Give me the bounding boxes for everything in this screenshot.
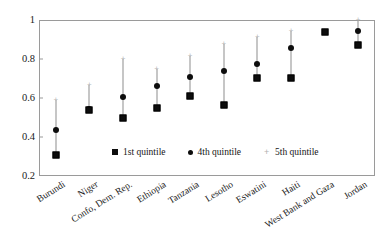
x-tick-label: Niger	[77, 180, 100, 200]
x-tick-label: Eswatini	[235, 180, 268, 206]
x-tick-label: Confo, Dem. Rep.	[70, 180, 134, 225]
x-tick-label: Haiti	[281, 180, 302, 198]
legend-marker-plus-icon	[263, 149, 270, 156]
chart-figure: 0.20.40.60.81 BurundiNigerConfo, Dem. Re…	[0, 0, 383, 251]
legend-label: 1st quintile	[123, 147, 166, 157]
x-tick-label: Tanzania	[167, 180, 201, 206]
x-tick-label: Burundi	[35, 180, 66, 205]
legend-marker-filled-circle-icon	[188, 150, 193, 155]
legend-item[interactable]: 1st quintile	[112, 147, 166, 157]
legend-marker-filled-square-icon	[112, 149, 118, 155]
chart-legend: 1st quintile4th quintile5th quintile	[112, 145, 319, 159]
legend-item[interactable]: 4th quintile	[188, 147, 242, 157]
x-tick-label: Lesotho	[204, 180, 235, 204]
x-tick-label: Jordan	[343, 180, 370, 201]
legend-label: 4th quintile	[198, 147, 242, 157]
legend-item[interactable]: 5th quintile	[263, 147, 319, 157]
x-tick-label: Ethiopia	[135, 180, 167, 205]
legend-label: 5th quintile	[275, 147, 319, 157]
x-axis: BurundiNigerConfo, Dem. Rep.EthiopiaTanz…	[0, 0, 383, 251]
